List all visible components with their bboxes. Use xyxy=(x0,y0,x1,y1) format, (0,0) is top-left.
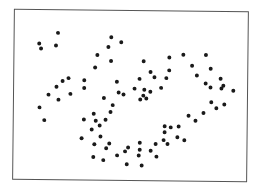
data-point xyxy=(61,79,65,83)
data-point xyxy=(107,141,111,145)
data-point xyxy=(204,81,208,85)
data-point xyxy=(56,98,60,102)
data-point xyxy=(222,102,226,106)
data-point xyxy=(201,111,205,115)
data-point xyxy=(152,75,156,79)
data-point xyxy=(101,158,105,162)
data-point xyxy=(141,94,145,98)
data-point xyxy=(169,125,173,129)
data-point xyxy=(159,86,163,90)
data-point xyxy=(80,136,84,140)
data-point xyxy=(122,92,126,96)
data-point xyxy=(167,68,171,72)
data-point xyxy=(142,88,146,92)
data-point xyxy=(117,91,121,95)
data-point xyxy=(37,105,41,109)
data-point xyxy=(154,155,158,159)
data-point xyxy=(68,92,72,96)
data-point xyxy=(182,138,186,142)
data-point xyxy=(115,80,119,84)
data-point xyxy=(82,86,86,90)
data-point xyxy=(166,142,170,146)
data-point xyxy=(187,114,191,118)
data-point xyxy=(209,100,213,104)
data-point xyxy=(82,78,86,82)
data-point xyxy=(138,148,142,152)
data-point xyxy=(56,31,60,35)
data-point xyxy=(214,106,218,110)
data-point xyxy=(46,93,50,97)
data-point xyxy=(119,40,123,44)
data-point xyxy=(163,130,167,134)
data-point xyxy=(149,149,153,153)
data-point xyxy=(163,124,167,128)
data-point xyxy=(138,77,142,81)
data-point xyxy=(39,46,43,50)
data-point xyxy=(162,138,166,142)
data-point xyxy=(231,89,235,93)
data-point xyxy=(133,87,137,91)
scatter-plot-frame xyxy=(12,9,249,182)
data-point xyxy=(82,118,86,122)
data-point xyxy=(94,119,98,123)
data-point xyxy=(104,146,108,150)
data-point xyxy=(193,119,197,123)
data-point xyxy=(164,76,168,80)
data-point xyxy=(190,64,194,68)
data-point xyxy=(154,142,158,146)
data-point xyxy=(37,42,41,46)
data-point xyxy=(95,53,99,57)
data-point xyxy=(142,59,146,63)
data-point xyxy=(109,35,113,39)
data-point xyxy=(90,127,94,131)
data-point xyxy=(177,124,181,128)
data-point xyxy=(42,118,46,122)
data-point xyxy=(219,77,223,81)
data-point xyxy=(126,146,130,150)
data-point xyxy=(175,135,179,139)
data-point xyxy=(98,134,102,138)
data-point xyxy=(92,142,96,146)
data-point xyxy=(209,67,213,71)
scatter-plot-area xyxy=(13,10,248,181)
data-point xyxy=(137,154,141,158)
data-point xyxy=(54,44,58,48)
data-point xyxy=(109,110,113,114)
data-point xyxy=(148,90,152,94)
data-point xyxy=(102,96,106,100)
data-point xyxy=(125,162,129,166)
data-point xyxy=(149,70,153,74)
data-point xyxy=(144,97,148,101)
data-point xyxy=(138,97,142,101)
data-point xyxy=(66,76,70,80)
data-point xyxy=(54,85,58,89)
data-point xyxy=(195,74,199,78)
data-point xyxy=(167,56,171,60)
data-point xyxy=(92,112,96,116)
data-point xyxy=(209,86,213,90)
data-point xyxy=(140,163,144,167)
data-point xyxy=(204,53,208,57)
data-point xyxy=(91,155,95,159)
data-point xyxy=(115,153,119,157)
data-point xyxy=(109,59,113,63)
data-point xyxy=(93,66,97,70)
data-point xyxy=(138,141,142,145)
data-point xyxy=(123,149,127,153)
data-point xyxy=(98,124,102,128)
data-point xyxy=(111,103,115,107)
data-point xyxy=(106,45,110,49)
data-point xyxy=(181,53,185,57)
data-point xyxy=(104,118,108,122)
